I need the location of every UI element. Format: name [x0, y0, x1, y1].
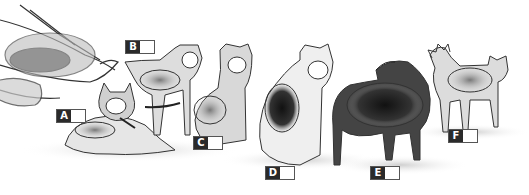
- sled: [0, 5, 118, 106]
- dog-f: [428, 44, 508, 132]
- label-e[interactable]: E: [370, 166, 400, 180]
- label-letter: D: [266, 167, 280, 179]
- label-b[interactable]: B: [125, 40, 155, 54]
- label-letter: C: [194, 137, 208, 149]
- label-c[interactable]: C: [193, 136, 223, 150]
- dog-c: [194, 44, 252, 145]
- dog-d: [260, 44, 333, 165]
- answer-checkbox[interactable]: [463, 130, 477, 142]
- label-a[interactable]: A: [56, 109, 86, 123]
- label-letter: F: [449, 130, 463, 142]
- label-letter: B: [126, 41, 140, 53]
- answer-checkbox[interactable]: [280, 167, 294, 179]
- label-letter: A: [57, 110, 71, 122]
- dog-e: [333, 61, 431, 165]
- label-letter: E: [371, 167, 385, 179]
- answer-checkbox[interactable]: [385, 167, 399, 179]
- label-d[interactable]: D: [265, 166, 295, 180]
- answer-checkbox[interactable]: [208, 137, 222, 149]
- label-f[interactable]: F: [448, 129, 478, 143]
- answer-checkbox[interactable]: [71, 110, 85, 122]
- answer-checkbox[interactable]: [140, 41, 154, 53]
